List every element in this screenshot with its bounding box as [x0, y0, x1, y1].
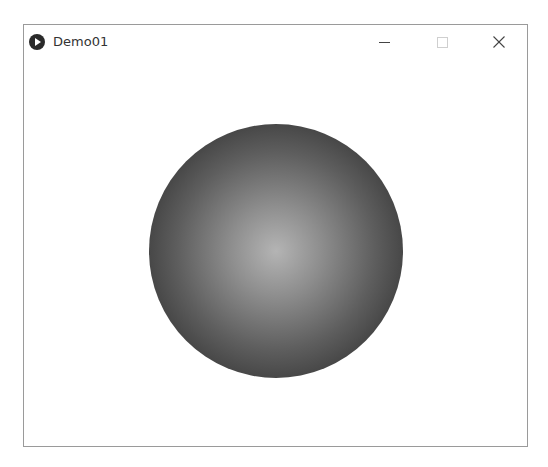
- drawing-canvas[interactable]: [24, 59, 527, 446]
- gradient-sphere: [149, 124, 403, 378]
- window-title: Demo01: [53, 33, 108, 51]
- app-window: Demo01: [23, 24, 528, 447]
- play-circle-icon: [29, 34, 45, 50]
- maximize-button: [419, 25, 465, 59]
- close-icon: [493, 36, 505, 48]
- minimize-button[interactable]: [361, 25, 407, 59]
- title-bar[interactable]: Demo01: [24, 25, 527, 59]
- close-button[interactable]: [476, 25, 522, 59]
